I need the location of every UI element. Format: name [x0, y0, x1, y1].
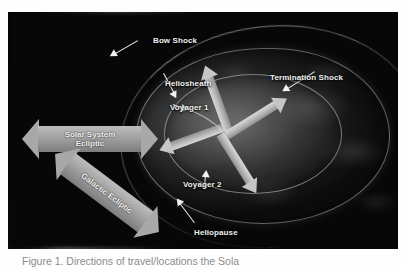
galactic-ecliptic-arrow: Galactic Ecliptic [47, 143, 166, 242]
outer-heliosheath-region [8, 12, 398, 249]
solar-system-ecliptic-label-line1: Solar System [65, 130, 116, 139]
voyager-1-label: Voyager 1 [170, 103, 209, 112]
heliopause-label: Heliopause [194, 228, 238, 237]
nebula-streak-center [95, 12, 147, 249]
voyager-1-trajectory [8, 12, 398, 249]
bow-shock-arc [108, 12, 398, 249]
figure-caption: Figure 1. Directions of travel/locations… [22, 255, 394, 268]
heliopause-mottling [158, 132, 373, 218]
galactic-ecliptic-label: Galactic Ecliptic [80, 171, 135, 215]
voyager-2-label: Voyager 2 [183, 180, 222, 189]
heliosheath-label: Heliosheath [165, 79, 211, 88]
solar-system-ecliptic-arrow: Solar System Ecliptic [22, 126, 158, 152]
heliopause-boundary [136, 48, 390, 224]
termination-shock-label: Termination Shock [270, 73, 343, 82]
bow-shock-label: Bow Shock [153, 36, 197, 45]
solar-system-ecliptic-label-line2: Ecliptic [76, 139, 104, 148]
nebula-dark-edge-left [8, 12, 54, 249]
nebula-streak-left [24, 12, 71, 249]
interstellar-nebula-background [8, 12, 183, 249]
nebula-dark-edge-top [8, 12, 183, 52]
termination-shock-boundary [164, 74, 342, 194]
heliosphere-figure-panel: Solar System Ecliptic Galactic Ecliptic … [8, 12, 398, 249]
figure-page: Solar System Ecliptic Galactic Ecliptic … [0, 0, 404, 269]
